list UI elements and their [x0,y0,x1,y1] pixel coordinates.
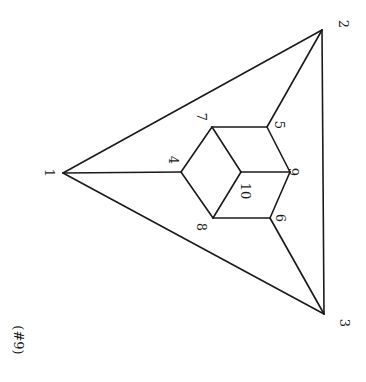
vertex-label-3: 3 [337,319,352,327]
vertex-label-2: 2 [336,20,351,28]
edge-1-4 [63,172,181,173]
vertex-label-6: 6 [273,214,288,222]
vertex-label-1: 1 [42,169,57,177]
vertex-label-7: 7 [194,113,209,121]
graph-diagram: 12345678910 (#9) [0,0,366,382]
vertex-label-10: 10 [238,183,253,200]
diagram-caption: (#9) [11,325,26,354]
background [0,0,366,382]
vertex-label-5: 5 [272,121,287,129]
vertex-label-9: 9 [286,168,301,176]
vertex-label-4: 4 [166,156,181,164]
vertex-label-8: 8 [194,223,209,231]
